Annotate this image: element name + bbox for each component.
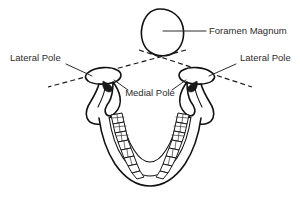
anatomical-diagram: Foramen Magnum Lateral Pole Lateral Pole…	[0, 0, 300, 199]
diagram-canvas: Foramen Magnum Lateral Pole Lateral Pole…	[0, 0, 300, 199]
leader-lateral-pole-left	[66, 64, 92, 76]
foramen-magnum-shape	[141, 9, 183, 56]
label-foramen-magnum: Foramen Magnum	[209, 25, 287, 36]
leader-lateral-pole-right	[209, 64, 236, 76]
label-lateral-pole-right: Lateral Pole	[240, 52, 291, 63]
label-lateral-pole-left: Lateral Pole	[10, 52, 61, 63]
label-medial-pole: Medial Pole	[125, 87, 175, 98]
condylar-axis-lines	[48, 50, 252, 87]
